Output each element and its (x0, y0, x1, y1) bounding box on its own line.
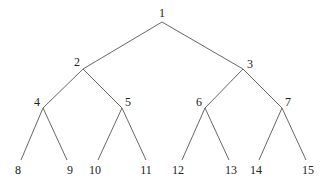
binary-tree-diagram: 123456789101112131415 (0, 0, 329, 182)
node-label-1: 1 (159, 6, 165, 20)
node-label-13: 13 (225, 163, 237, 177)
edge-5-11 (122, 108, 146, 160)
edge-7-15 (282, 108, 306, 160)
node-label-2: 2 (74, 55, 80, 69)
edge-5-10 (98, 108, 122, 160)
node-label-5: 5 (125, 95, 131, 109)
tree-edges (21, 22, 306, 160)
edge-4-8 (21, 108, 43, 160)
node-label-9: 9 (67, 163, 73, 177)
node-label-14: 14 (250, 163, 262, 177)
edge-6-12 (182, 108, 205, 160)
edge-3-7 (243, 69, 282, 108)
node-label-10: 10 (89, 163, 101, 177)
node-label-3: 3 (247, 57, 253, 71)
edge-7-14 (259, 108, 282, 160)
edge-6-13 (205, 108, 229, 160)
edge-2-4 (43, 69, 83, 108)
node-label-15: 15 (302, 163, 314, 177)
node-label-6: 6 (196, 95, 202, 109)
edge-4-9 (43, 108, 67, 160)
edge-1-2 (83, 22, 162, 69)
edge-1-3 (162, 22, 243, 69)
node-label-8: 8 (15, 163, 21, 177)
edge-3-6 (205, 69, 243, 108)
node-label-7: 7 (285, 95, 291, 109)
node-label-12: 12 (172, 163, 184, 177)
node-label-11: 11 (140, 163, 152, 177)
edge-2-5 (83, 69, 122, 108)
node-label-4: 4 (34, 95, 40, 109)
